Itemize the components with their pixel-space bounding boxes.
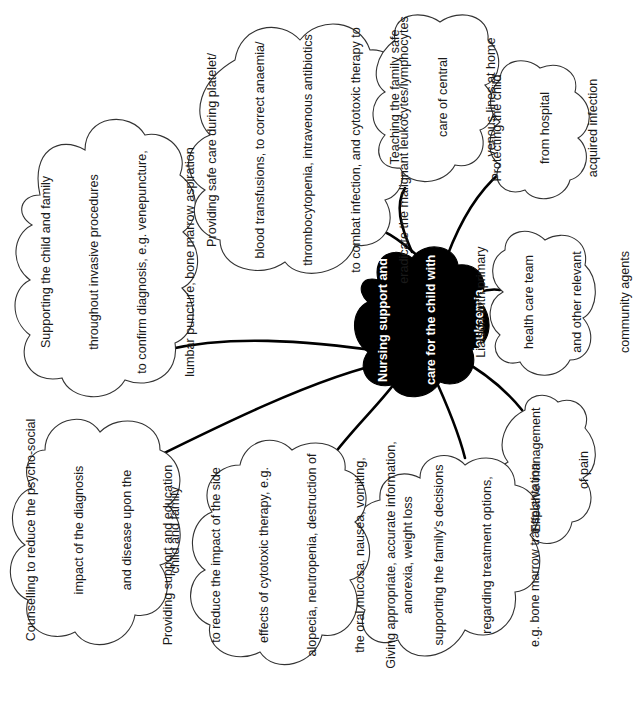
node-text-line: Teaching the family safe	[387, 29, 403, 164]
node-liaison-primary-care: Liaison with primary health care team an…	[441, 246, 637, 357]
node-text-line: thrombocytopenia, intravenous antibiotic…	[300, 16, 316, 283]
node-text-line: health care team	[521, 246, 537, 357]
node-text-line: community agents	[617, 246, 633, 357]
node-text-line: the oral mucosa, nausea, vomiting,	[352, 453, 368, 656]
node-text-line: of pain	[576, 407, 592, 532]
node-text-line: regarding treatment options,	[479, 441, 495, 669]
node-text-line: to reduce the impact of the side	[208, 453, 224, 656]
node-text-line: anorexia, weight loss	[400, 453, 416, 656]
node-text-line: supporting the family's decisions	[431, 441, 447, 669]
node-counselling: Counselling to reduce the psycho-social …	[0, 419, 199, 642]
node-text-line: Providing safe care during platelet/	[204, 16, 220, 283]
node-text-line: impact of the diagnosis	[71, 419, 87, 642]
node-text-line: care of central	[435, 29, 451, 164]
node-text-line: to confirm diagnosis, e.g. venepuncture,	[134, 147, 150, 377]
node-text-line: acquired infection	[585, 74, 601, 181]
node-text-line: blood transfusions, to correct anaemia/	[252, 16, 268, 283]
node-text-line: effects of cytotoxic therapy, e.g.	[256, 453, 272, 656]
node-text-line: Counselling to reduce the psycho-social	[23, 419, 39, 642]
node-text-line: from hospital	[537, 74, 553, 181]
node-text-line: Protecting the child	[489, 74, 505, 181]
node-text-line: throughout invasive procedures	[86, 147, 102, 377]
node-text-line: alopecia, neutropenia, destruction of	[304, 453, 320, 656]
node-text-line: child and family	[167, 419, 183, 642]
node-text-line: Liaison with primary	[473, 246, 489, 357]
node-text-line: and disease upon the	[119, 419, 135, 642]
node-text-line: Supporting the child and family	[38, 147, 54, 377]
node-text-line: e.g. bone marrow transplantation	[527, 441, 543, 669]
node-hospital-acquired-infection: Protecting the child from hospital acqui…	[457, 74, 617, 181]
node-text-line: and other relevant	[569, 246, 585, 357]
